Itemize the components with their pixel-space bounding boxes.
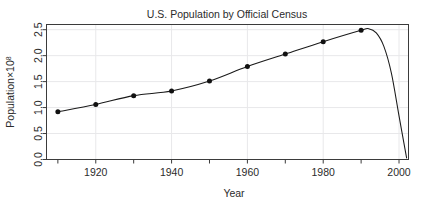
y-tick-label-4: 2.0	[32, 48, 44, 63]
chart-title: U.S. Population by Official Census	[147, 8, 307, 20]
y-tick-label-0: 0.0	[32, 152, 44, 167]
data-point-1940	[169, 88, 174, 93]
x-tick-label-0: 1920	[84, 166, 108, 178]
y-tick-label-3: 1.5	[32, 74, 44, 89]
data-point-1930	[131, 93, 136, 98]
data-point-1980	[321, 39, 326, 44]
chart-panel: 0.00.51.01.52.02.5 19201940196019802000 …	[0, 0, 427, 205]
data-point-1970	[283, 52, 288, 57]
x-tick-label-4: 2000	[387, 166, 411, 178]
data-point-1920	[93, 102, 98, 107]
y-axis-title-exponent: 8	[5, 56, 12, 60]
y-axis-title: Population×108	[4, 56, 16, 127]
data-point-1950	[207, 79, 212, 84]
y-axis-title-text: Population×10	[4, 60, 16, 128]
census-population-line-chart: 0.00.51.01.52.02.5 19201940196019802000 …	[0, 0, 427, 205]
x-axis-title: Year	[223, 187, 245, 199]
y-tick-label-5: 2.5	[32, 22, 44, 37]
data-point-1910	[55, 109, 60, 114]
y-tick-label-2: 1.0	[32, 100, 44, 115]
data-point-1960	[245, 64, 250, 69]
x-tick-label-1: 1940	[160, 166, 184, 178]
y-tick-label-1: 0.5	[32, 126, 44, 141]
data-point-1990	[359, 28, 364, 33]
x-tick-label-3: 1980	[312, 166, 336, 178]
x-tick-label-2: 1960	[236, 166, 260, 178]
